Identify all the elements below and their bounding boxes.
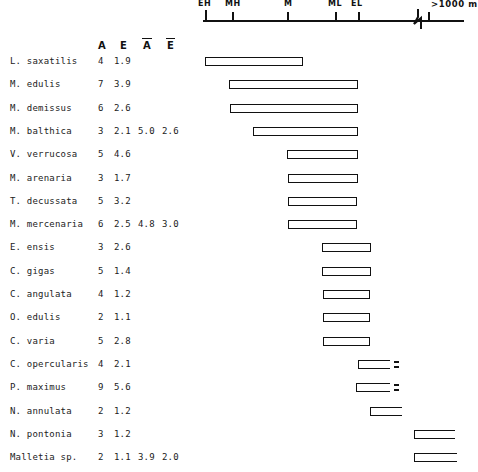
species-name: O. edulis bbox=[10, 312, 61, 322]
axis-tick-ml bbox=[335, 12, 337, 21]
species-name: P. maximus bbox=[10, 382, 66, 392]
value-a: 4 bbox=[98, 359, 110, 369]
table-row: L. saxatilis41.9 bbox=[0, 56, 469, 78]
value-e: 1.2 bbox=[114, 406, 134, 416]
axis-tick-m bbox=[287, 12, 289, 21]
species-name: T. decussata bbox=[10, 196, 77, 206]
depth-range-bar bbox=[253, 127, 358, 136]
value-e: 2.6 bbox=[114, 242, 134, 252]
depth-range-bar bbox=[229, 80, 358, 89]
value-a: 2 bbox=[98, 452, 110, 462]
depth-range-bar bbox=[288, 174, 358, 183]
value-a: 6 bbox=[98, 219, 110, 229]
depth-range-bar bbox=[323, 337, 370, 346]
a-bar-glyph: A bbox=[143, 40, 151, 51]
value-a: 5 bbox=[98, 266, 110, 276]
value-e: 5.6 bbox=[114, 382, 134, 392]
value-e: 4.6 bbox=[114, 149, 134, 159]
table-row: M. demissus62.6 bbox=[0, 103, 469, 125]
value-a: 2 bbox=[98, 406, 110, 416]
value-e: 3.9 bbox=[114, 79, 134, 89]
value-a: 4 bbox=[98, 56, 110, 66]
value-e: 1.9 bbox=[114, 56, 134, 66]
table-row: M. balthica32.15.02.6 bbox=[0, 126, 469, 148]
depth-range-bar bbox=[322, 267, 371, 276]
value-a: 6 bbox=[98, 103, 110, 113]
species-name: C. varia bbox=[10, 336, 55, 346]
value-a: 4 bbox=[98, 289, 110, 299]
value-a: 3 bbox=[98, 173, 110, 183]
value-e: 2.1 bbox=[114, 126, 134, 136]
column-header-e: E bbox=[120, 40, 127, 51]
axis-tick-eh bbox=[205, 10, 207, 21]
depth-range-bar bbox=[288, 220, 357, 229]
column-header-a-bar: A bbox=[143, 40, 151, 51]
table-row: O. edulis21.1 bbox=[0, 312, 469, 334]
table-row: E. ensis32.6 bbox=[0, 242, 469, 264]
table-row: M. arenaria31.7 bbox=[0, 173, 469, 195]
species-name: M. demissus bbox=[10, 103, 72, 113]
range-continuation-dash bbox=[394, 361, 399, 363]
table-row: C. opercularis42.1 bbox=[0, 359, 469, 381]
depth-range-bar bbox=[230, 104, 358, 113]
axis-tick-el bbox=[358, 12, 360, 21]
value-e: 2.8 bbox=[114, 336, 134, 346]
axis-label-ml: ML bbox=[328, 0, 342, 8]
table-row: P. maximus95.6 bbox=[0, 382, 469, 404]
value-abar: 4.8 bbox=[138, 219, 158, 229]
axis-label-mh: MH bbox=[225, 0, 241, 8]
depth-range-bar bbox=[322, 243, 371, 252]
species-name: M. balthica bbox=[10, 126, 72, 136]
table-row: M. edulis73.9 bbox=[0, 79, 469, 101]
axis-label-over-1000m: >1000 m bbox=[431, 0, 478, 9]
table-row: N. pontonia31.2 bbox=[0, 429, 469, 451]
value-a: 3 bbox=[98, 242, 110, 252]
species-name: N. pontonia bbox=[10, 429, 72, 439]
table-row: T. decussata53.2 bbox=[0, 196, 469, 218]
value-e: 1.1 bbox=[114, 452, 134, 462]
table-row: C. varia52.8 bbox=[0, 336, 469, 358]
depth-range-bar bbox=[358, 360, 390, 369]
value-ebar: 2.6 bbox=[162, 126, 182, 136]
depth-axis: EHMHMMLEL >1000 m bbox=[0, 0, 469, 34]
value-a: 5 bbox=[98, 196, 110, 206]
species-name: C. angulata bbox=[10, 289, 72, 299]
value-ebar: 3.0 bbox=[162, 219, 182, 229]
table-row: C. angulata41.2 bbox=[0, 289, 469, 311]
value-e: 1.7 bbox=[114, 173, 134, 183]
table-row: C. gigas51.4 bbox=[0, 266, 469, 288]
table-row: Malletia sp.21.13.92.0 bbox=[0, 452, 469, 472]
depth-range-bar bbox=[370, 407, 402, 416]
depth-range-bar bbox=[414, 453, 457, 462]
depth-range-bar bbox=[287, 150, 358, 159]
table-row: N. annulata21.2 bbox=[0, 406, 469, 428]
value-e: 2.6 bbox=[114, 103, 134, 113]
table-row: M. mercenaria62.54.83.0 bbox=[0, 219, 469, 241]
depth-range-bar bbox=[205, 57, 303, 66]
axis-label-eh: EH bbox=[198, 0, 211, 8]
axis-tick-mh bbox=[232, 12, 234, 21]
species-name: E. ensis bbox=[10, 242, 55, 252]
value-e: 2.5 bbox=[114, 219, 134, 229]
column-header-a: A bbox=[98, 40, 106, 51]
species-name: Malletia sp. bbox=[10, 452, 77, 462]
value-abar: 3.9 bbox=[138, 452, 158, 462]
value-e: 3.2 bbox=[114, 196, 134, 206]
depth-range-bar bbox=[323, 290, 370, 299]
value-abar: 5.0 bbox=[138, 126, 158, 136]
column-header-e-bar: E bbox=[167, 40, 174, 51]
value-e: 1.4 bbox=[114, 266, 134, 276]
axis-label-m: M bbox=[284, 0, 292, 8]
value-e: 2.1 bbox=[114, 359, 134, 369]
value-a: 7 bbox=[98, 79, 110, 89]
axis-label-el: EL bbox=[351, 0, 363, 8]
species-name: M. arenaria bbox=[10, 173, 72, 183]
depth-range-bar bbox=[356, 383, 390, 392]
value-ebar: 2.0 bbox=[162, 452, 182, 462]
species-name: N. annulata bbox=[10, 406, 72, 416]
value-a: 2 bbox=[98, 312, 110, 322]
range-continuation-dash bbox=[394, 389, 399, 391]
depth-range-bar bbox=[323, 313, 370, 322]
value-e: 1.1 bbox=[114, 312, 134, 322]
